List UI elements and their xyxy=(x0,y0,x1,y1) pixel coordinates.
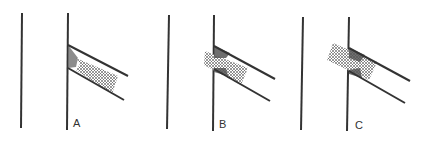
right-vertical-line xyxy=(213,15,214,131)
left-vertical-line xyxy=(21,13,22,128)
diagram-canvas: A B C xyxy=(0,0,421,142)
panel-label-c: C xyxy=(355,119,363,131)
left-vertical-line xyxy=(301,17,303,130)
lower-diagonal-line xyxy=(349,71,405,103)
panel-b: B xyxy=(167,15,275,131)
right-vertical-line xyxy=(67,13,68,130)
panel-label-b: B xyxy=(219,118,226,130)
panel-c: C xyxy=(301,17,410,131)
panel-label-a: A xyxy=(73,117,81,129)
panel-a: A xyxy=(21,13,128,130)
right-vertical-line xyxy=(347,17,349,131)
left-vertical-line xyxy=(167,15,169,129)
